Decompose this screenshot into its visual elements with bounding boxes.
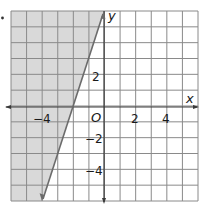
x-axis-left-arrow-icon <box>5 105 11 109</box>
x-tick-label-neg4: −4 <box>33 112 51 126</box>
x-tick-label-4: 4 <box>162 112 170 126</box>
problem-bullet <box>1 17 4 20</box>
coordinate-graph: y x O −4 2 4 2 −2 −4 <box>0 0 203 216</box>
x-axis-label: x <box>185 91 194 106</box>
y-tick-label-neg2: −2 <box>85 132 103 146</box>
y-tick-label-2: 2 <box>92 70 100 84</box>
y-tick-label-neg4: −4 <box>85 164 103 178</box>
y-axis-label: y <box>107 8 116 23</box>
x-tick-label-2: 2 <box>131 112 139 126</box>
origin-label: O <box>91 110 101 125</box>
